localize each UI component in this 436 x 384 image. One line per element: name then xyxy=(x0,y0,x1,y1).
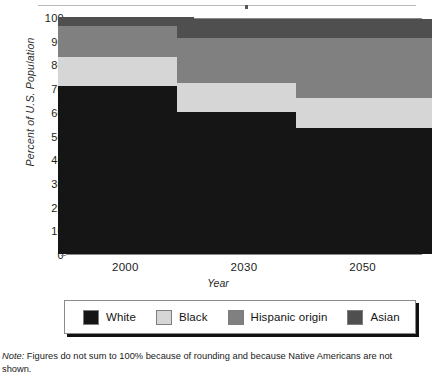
y-tick-mark xyxy=(61,255,66,256)
bar-segment-asian xyxy=(296,19,432,38)
stacked-bar-chart: Percent of U.S. Population 0102030405060… xyxy=(0,0,436,290)
bar-segment-white xyxy=(177,112,313,254)
legend-item-black[interactable]: Black xyxy=(156,310,208,325)
bar-segment-asian xyxy=(177,19,313,38)
bar-segment-white xyxy=(58,86,194,254)
legend-swatch-icon xyxy=(347,310,363,325)
x-tick-label: 2000 xyxy=(112,261,139,273)
bar-segment-black xyxy=(58,57,194,85)
legend-item-hispanic-origin[interactable]: Hispanic origin xyxy=(228,310,328,325)
legend-label: White xyxy=(106,311,136,323)
footnote-text: Figures do not sum to 100% because of ro… xyxy=(2,351,392,374)
legend-item-asian[interactable]: Asian xyxy=(347,310,399,325)
legend-label: Black xyxy=(179,311,208,323)
bar-segment-asian xyxy=(58,17,194,26)
x-axis-title: Year xyxy=(0,277,436,289)
legend-swatch-icon xyxy=(83,310,99,325)
bar-2030 xyxy=(177,19,313,254)
bar-2050 xyxy=(296,19,432,254)
legend-swatch-icon xyxy=(228,310,244,325)
bar-segment-hispanic-origin xyxy=(177,38,313,83)
legend-item-white[interactable]: White xyxy=(83,310,136,325)
bar-segment-black xyxy=(177,83,313,111)
bar-segment-hispanic-origin xyxy=(58,26,194,57)
legend-swatch-icon xyxy=(156,310,172,325)
bar-2000 xyxy=(58,17,194,254)
chart-footnote: Note: Figures do not sum to 100% because… xyxy=(2,350,402,375)
footnote-lead: Note: xyxy=(2,351,24,361)
legend-label: Asian xyxy=(370,311,399,323)
bar-segment-white xyxy=(296,128,432,254)
plot-area xyxy=(66,18,422,255)
bar-segment-black xyxy=(296,98,432,129)
legend-label: Hispanic origin xyxy=(251,311,328,323)
x-tick-label: 2030 xyxy=(231,261,258,273)
chart-legend: WhiteBlackHispanic originAsian xyxy=(64,300,416,334)
x-tick-label: 2050 xyxy=(349,261,376,273)
bar-segment-hispanic-origin xyxy=(296,38,432,97)
